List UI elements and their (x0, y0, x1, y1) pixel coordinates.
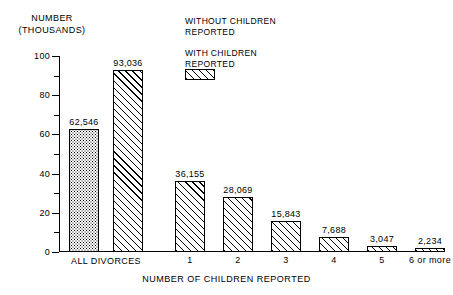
x-tick-label-4: 4 (331, 255, 336, 265)
y-tick-90 (54, 76, 59, 77)
bar-value-label: 7,688 (322, 225, 346, 235)
bar-all-divorces-without-children: 62,546 (69, 129, 99, 252)
bar-four-children: 7,688 4 (319, 237, 349, 252)
bar-value-label: 3,047 (370, 234, 394, 244)
bar-value-label: 15,843 (271, 209, 300, 219)
y-tick-label-40: 40 (39, 169, 50, 179)
bar-value-label: 62,546 (69, 117, 98, 127)
bar-six-or-more-children: 2,234 6 or more (415, 248, 445, 252)
y-tick-80 (52, 95, 59, 96)
bar-value-label: 28,069 (223, 185, 252, 195)
legend-item-without-children: WITHOUT CHILDREN REPORTED (185, 16, 276, 37)
bar-value-label: 2,234 (418, 236, 442, 246)
bar-two-children: 28,069 2 (223, 197, 253, 252)
y-tick-10 (54, 232, 59, 233)
y-tick-70 (54, 115, 59, 116)
y-tick-label-20: 20 (39, 208, 50, 218)
bar-three-children: 15,843 3 (271, 221, 301, 252)
bar-all-divorces-with-children: 93,036 (113, 70, 143, 252)
x-axis-title: NUMBER OF CHILDREN REPORTED (0, 274, 453, 284)
x-tick-label-all-divorces: ALL DIVORCES (71, 256, 141, 266)
y-tick-label-80: 80 (39, 90, 50, 100)
x-tick-label-2: 2 (235, 255, 240, 265)
y-axis-line (59, 56, 60, 252)
y-tick-40 (52, 174, 59, 175)
y-axis-title-line-1: NUMBER (6, 12, 98, 24)
bar-value-label: 93,036 (113, 58, 142, 68)
x-tick-label-6-or-more: 6 or more (409, 255, 451, 265)
bar-value-label: 36,155 (175, 169, 204, 179)
y-tick-60 (52, 134, 59, 135)
x-tick-label-3: 3 (283, 255, 288, 265)
y-tick-label-100: 100 (34, 51, 50, 61)
x-tick-label-1: 1 (187, 255, 192, 265)
y-tick-0 (52, 252, 59, 253)
bar-five-children: 3,047 5 (367, 246, 397, 252)
plot-area: 100 80 60 40 20 0 62,546 93,036 36,155 1… (59, 56, 445, 252)
y-tick-100 (52, 56, 59, 57)
y-tick-20 (52, 213, 59, 214)
bar-one-child: 36,155 1 (175, 181, 205, 252)
y-tick-50 (54, 154, 59, 155)
legend-label-without-children: WITHOUT CHILDREN REPORTED (185, 16, 276, 37)
y-axis-title-line-2: (THOUSANDS) (6, 24, 98, 36)
y-axis-title: NUMBER (THOUSANDS) (6, 12, 98, 36)
bar-chart-figure: NUMBER (THOUSANDS) WITHOUT CHILDREN REPO… (0, 0, 453, 295)
y-tick-label-60: 60 (39, 129, 50, 139)
x-tick-label-5: 5 (379, 255, 384, 265)
y-tick-30 (54, 193, 59, 194)
y-tick-label-0: 0 (45, 247, 50, 257)
